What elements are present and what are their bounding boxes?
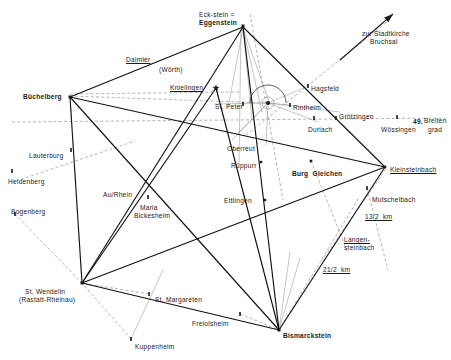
map-node-st_margareten[interactable]	[148, 292, 150, 296]
map-label-daimler: Daimler	[126, 56, 150, 64]
map-label-heidenberg: Heidenberg	[8, 178, 45, 186]
map-label-mutschelbach: Mutschelbach	[372, 196, 416, 204]
node-marker-group	[11, 25, 398, 342]
map-node-rueppurr[interactable]	[260, 161, 262, 163]
dashed-line-kuppen-dash	[82, 283, 131, 339]
map-node-heidenberg[interactable]	[11, 169, 13, 173]
map-label-ettlingen: Ettlingen	[224, 197, 252, 205]
map-label-durlach: Durlach	[308, 126, 332, 134]
map-label-km_13_2: 13/2 km	[365, 213, 392, 221]
map-vector-layer	[0, 0, 451, 360]
map-label-steinbach: steinbach	[344, 244, 374, 252]
thin-line-egg-fan-4	[243, 28, 270, 104]
thin-line-group	[131, 28, 340, 339]
map-label-eggenstein: Eggenstein	[199, 19, 237, 27]
map-node-bismarckstein[interactable]	[278, 329, 281, 332]
thin-line-bism-fan2	[279, 258, 300, 330]
dashed-line-buechel-dash2	[70, 92, 240, 94]
map-label-oberreut: Oberreut	[227, 145, 255, 153]
map-node-mutschelbach[interactable]	[366, 186, 368, 190]
map-label-km_21_2: 21/2 km	[323, 266, 350, 274]
map-label-woessingen: Wössingen	[381, 126, 416, 134]
dashed-line-bogenberg-r	[15, 214, 82, 283]
map-label-eckstein: Eck-stein =	[199, 11, 235, 19]
thin-line-bism-fan1	[279, 252, 290, 330]
map-label-st_wendelin: St. Wendelin	[25, 288, 65, 296]
map-node-st_wendelin[interactable]	[81, 282, 84, 285]
thin-line-kuppen-up	[131, 270, 163, 339]
map-label-st_margareten: St. Margareten	[155, 296, 202, 304]
dashed-line-buechel-dash	[70, 96, 268, 103]
dashed-line-group	[12, 14, 445, 339]
map-label-rueppurr: Rüppurr	[231, 162, 257, 170]
map-node-hagsfeld[interactable]	[307, 84, 309, 88]
map-label-bismarckstein: Bismarckstein	[283, 332, 331, 340]
map-node-lauterburg[interactable]	[70, 148, 72, 152]
heavy-line-group	[70, 27, 385, 330]
map-label-bruchsal: Bruchsal	[370, 38, 398, 46]
map-label-stpeter: St. Peter	[215, 103, 243, 111]
map-node-hub[interactable]	[266, 101, 270, 105]
map-node-eggenstein[interactable]	[242, 25, 245, 28]
dashed-line-bism-21km	[279, 196, 360, 330]
map-label-hagsfeld: Hagsfeld	[311, 85, 339, 93]
map-label-rintheim: Rintheim	[293, 104, 321, 112]
map-label-lauterburg: Lauterburg	[29, 152, 63, 160]
map-label-langen: Langen-	[344, 236, 370, 244]
map-node-groetzingen[interactable]	[335, 116, 337, 120]
map-label-kuppenheim: Kuppenheim	[135, 343, 175, 351]
map-node-kleinsteinbach[interactable]	[384, 166, 387, 169]
map-node-woessingen[interactable]	[396, 115, 398, 119]
heavy-line-eggenstein-kleinstein	[243, 27, 385, 167]
thin-line-hub-hag	[268, 86, 308, 103]
heavy-line-eggenstein-bismarck	[243, 27, 279, 330]
map-label-kleinsteinbach: Kleinsteinbach	[390, 166, 436, 174]
map-node-durlach[interactable]	[313, 116, 315, 120]
map-node-kuppenheim[interactable]	[130, 337, 132, 341]
map-node-freiolsheim[interactable]	[239, 312, 241, 316]
map-label-stadtkirche: zur Stadtkirche	[362, 30, 410, 38]
map-node-maria[interactable]	[147, 195, 149, 199]
map-label-rastatt: (Rastatt-Rheinau)	[19, 296, 75, 304]
map-label-burg_gleichen: Burg Gleichen	[292, 170, 342, 178]
map-node-burg_gleichen[interactable]	[310, 160, 313, 163]
protractor-arc	[250, 85, 286, 103]
dashed-line-margareten-r	[82, 283, 149, 294]
map-label-breitengrad_num: 49.	[413, 118, 423, 126]
heavy-line-eggenstein-buechelberg	[70, 27, 243, 97]
map-label-knielingen: Knielingen	[170, 84, 203, 92]
heavy-line-buechelberg-stwendelin	[70, 97, 82, 283]
dashed-line-latitude-49	[12, 118, 445, 122]
map-label-grad: grad	[428, 126, 442, 134]
map-label-buechelberg: Büchelberg	[23, 93, 62, 101]
map-label-freiolsheim: Freiolsheim	[192, 320, 229, 328]
map-node-buechelberg[interactable]	[69, 96, 72, 99]
map-node-rintheim[interactable]	[289, 103, 291, 107]
heavy-line-stwendelin-knielingen	[82, 88, 216, 283]
thin-line-egg-fan-3	[243, 28, 262, 112]
heavy-line-stwendelin-bismarck	[82, 283, 279, 330]
survey-map-figure: Eck-stein =Eggensteinzur StadtkircheBruc…	[0, 0, 451, 360]
map-label-groetzingen: Grötzingen	[339, 113, 374, 121]
map-label-breiten: Breiten	[424, 117, 447, 125]
map-node-ettlingen[interactable]	[264, 199, 266, 201]
map-label-bogenberg: Bogenberg	[11, 208, 46, 216]
map-label-woerth: (Wörth)	[159, 66, 183, 74]
thin-line-hub-down	[266, 103, 268, 145]
map-label-au_rhein: Au/Rhein	[103, 191, 132, 199]
map-label-maria: Maria	[140, 204, 158, 212]
map-label-bickesheim: Bickesheim	[134, 212, 170, 220]
